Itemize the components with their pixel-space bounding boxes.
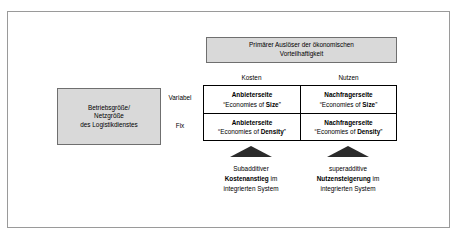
matrix-cell-title: Anbieterseite <box>232 90 273 99</box>
caption-cost: Subadditiver Kostenanstieg im integriert… <box>196 164 306 194</box>
subject-box: Betriebsgröße/ Netzgröße des Logistikdie… <box>57 88 161 145</box>
matrix-cell-subtitle: “Economies of Density” <box>315 127 383 136</box>
caption-benefit-line-2-rest: im <box>371 175 380 182</box>
column-header-kosten: Kosten <box>203 74 300 81</box>
matrix-cell-sub-emphasis: Density <box>261 128 284 135</box>
matrix-cell-sub-prefix: “Economies of <box>218 128 261 135</box>
matrix-cell-title: Nachfragerseite <box>324 118 372 127</box>
matrix-cell-sub-suffix: ” <box>284 128 286 135</box>
caption-cost-emphasis: Kostenanstieg <box>225 175 269 182</box>
up-arrow-icon-cost <box>230 146 272 157</box>
up-arrow-icon-benefit <box>327 146 369 157</box>
matrix-cell-subtitle: “Economies of Density” <box>218 127 286 136</box>
trigger-box-line-1: Primärer Auslöser der ökonomischen <box>249 41 354 50</box>
matrix-cell-fix-nutzen: Nachfragerseite “Economies of Density” <box>300 113 396 140</box>
matrix-cell-variabel-kosten: Anbieterseite “Economies of Size” <box>204 86 300 113</box>
matrix-cell-fix-kosten: Anbieterseite “Economies of Density” <box>204 113 300 140</box>
caption-benefit: superadditive Nutzensteigerung im integr… <box>293 164 403 194</box>
caption-cost-line-2: Kostenanstieg im <box>196 174 306 184</box>
matrix-cell-sub-suffix: ” <box>375 101 377 108</box>
matrix-2x2: Anbieterseite “Economies of Size” Nachfr… <box>203 85 397 141</box>
matrix-cell-sub-emphasis: Size <box>362 101 375 108</box>
caption-cost-line-3: integrierten System <box>196 184 306 194</box>
row-label-fix: Fix <box>160 122 200 129</box>
caption-cost-line-2-rest: im <box>269 175 278 182</box>
matrix-cell-sub-prefix: “Economies of <box>315 128 358 135</box>
caption-benefit-line-3: integrierten System <box>293 184 403 194</box>
caption-cost-line-1: Subadditiver <box>196 164 306 174</box>
column-header-nutzen: Nutzen <box>300 74 397 81</box>
trigger-box-line-2: Vorteilhaftigkeit <box>249 50 354 59</box>
matrix-cell-title: Nachfragerseite <box>324 90 372 99</box>
matrix-cell-sub-prefix: “Economies of <box>320 101 363 108</box>
matrix-cell-subtitle: “Economies of Size” <box>320 100 378 109</box>
diagram-canvas: Primärer Auslöser der ökonomischen Vorte… <box>0 0 466 241</box>
matrix-cell-sub-prefix: “Economies of <box>223 101 266 108</box>
subject-box-text: Betriebsgröße/ Netzgröße des Logistikdie… <box>80 104 138 130</box>
matrix-cell-title: Anbieterseite <box>232 118 273 127</box>
matrix-cell-subtitle: “Economies of Size” <box>223 100 281 109</box>
subject-box-line-3: des Logistikdienstes <box>80 121 138 130</box>
subject-box-line-2: Netzgröße <box>80 112 138 121</box>
caption-benefit-emphasis: Nutzensteigerung <box>317 175 371 182</box>
trigger-box: Primärer Auslöser der ökonomischen Vorte… <box>206 37 397 63</box>
caption-benefit-line-2: Nutzensteigerung im <box>293 174 403 184</box>
row-label-variabel: Variabel <box>160 94 200 101</box>
matrix-cell-sub-emphasis: Density <box>357 128 380 135</box>
trigger-box-text: Primärer Auslöser der ökonomischen Vorte… <box>249 41 354 58</box>
matrix-cell-sub-suffix: ” <box>279 101 281 108</box>
matrix-cell-variabel-nutzen: Nachfragerseite “Economies of Size” <box>300 86 396 113</box>
caption-benefit-line-1: superadditive <box>293 164 403 174</box>
matrix-cell-sub-emphasis: Size <box>266 101 279 108</box>
matrix-cell-sub-suffix: ” <box>380 128 382 135</box>
subject-box-line-1: Betriebsgröße/ <box>80 104 138 113</box>
